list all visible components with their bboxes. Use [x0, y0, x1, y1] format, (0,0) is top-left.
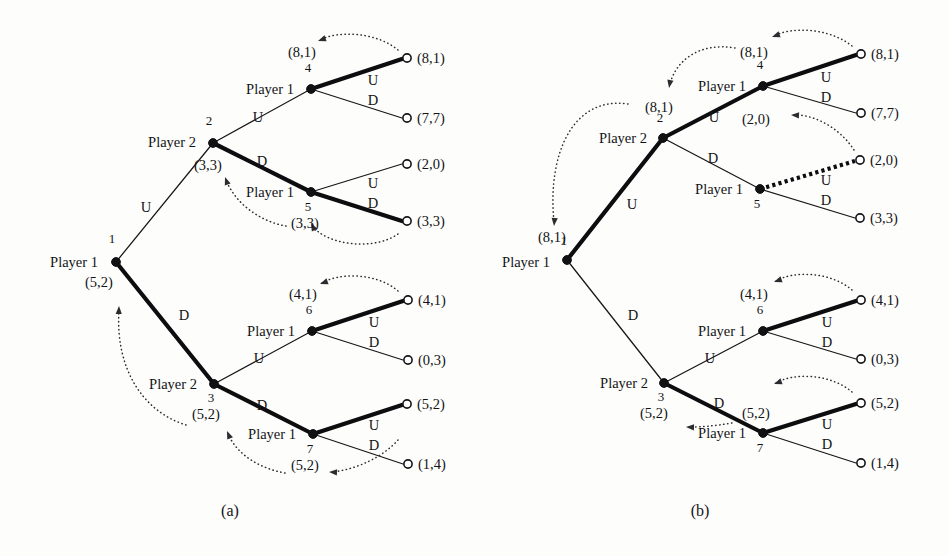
terminal-node-b-t4[interactable]: [856, 214, 864, 222]
panel-a-action-labels: UDUDUDUDUDUDUD: [141, 72, 380, 453]
arrow-head-a-arr-7: [329, 469, 337, 476]
terminal-node-a-t3[interactable]: [403, 160, 411, 168]
panel-a-terminal-nodes: (8,1)(7,7)(2,0)(3,3)(4,1)(0,3)(5,2)(1,4): [403, 50, 446, 473]
backward-induction-arrow-b-arr-1: [553, 103, 628, 222]
decision-node-a-n6[interactable]: [308, 327, 317, 336]
action-label-a-act-3u: U: [254, 350, 265, 366]
backward-induction-arrow-b-arr-5: [794, 115, 854, 150]
tree-edge-a-e-4-t2: [311, 89, 402, 118]
terminal-node-a-t1[interactable]: [403, 54, 411, 62]
player-label-a-n5: Player 1: [246, 184, 294, 200]
player-label-b-n5: Player 1: [695, 181, 743, 197]
terminal-node-b-t1[interactable]: [857, 50, 865, 58]
decision-node-b-n1[interactable]: [563, 256, 572, 265]
backward-induction-arrow-b-arr-6: [776, 274, 852, 290]
value-label-b-val-2: (8,1): [645, 99, 673, 116]
terminal-payoff-a-t8: (1,4): [418, 456, 446, 473]
node-number-b-n6: 6: [757, 302, 764, 317]
panel-b: (8,1)(7,7)(2,0)(3,3)(4,1)(0,3)(5,2)(1,4)…: [502, 30, 899, 472]
terminal-node-b-t5[interactable]: [857, 296, 865, 304]
action-label-b-act-7d: D: [822, 436, 832, 452]
action-label-a-act-1u: U: [141, 199, 152, 215]
action-label-b-act-5d: D: [821, 192, 831, 208]
arrow-head-a-arr-3: [224, 430, 233, 440]
terminal-node-b-t6[interactable]: [857, 355, 865, 363]
terminal-payoff-b-t7: (5,2): [871, 395, 899, 412]
decision-node-b-n3[interactable]: [660, 379, 669, 388]
panel-a-value-labels: (5,2)(3,3)(5,2)(8,1)(3,3)(4,1)(5,2): [85, 44, 319, 474]
value-label-a-val-7: (5,2): [291, 457, 319, 474]
node-number-b-n5: 5: [754, 196, 761, 211]
action-label-a-act-4u: U: [368, 72, 379, 88]
terminal-node-a-t8[interactable]: [404, 460, 412, 468]
terminal-node-a-t4[interactable]: [403, 217, 411, 225]
decision-node-a-n3[interactable]: [210, 380, 219, 389]
action-label-b-act-1d: D: [628, 307, 638, 323]
decision-node-a-n2[interactable]: [209, 139, 218, 148]
terminal-payoff-a-t3: (2,0): [417, 156, 445, 173]
action-label-a-act-2u: U: [253, 109, 264, 125]
tree-edge-a-e-6-t6: [312, 331, 403, 360]
terminal-payoff-b-t5: (4,1): [871, 292, 899, 309]
action-label-a-act-6d: D: [369, 334, 379, 350]
player-label-a-n2: Player 2: [148, 134, 196, 150]
caption-a: (a): [221, 502, 239, 520]
tree-edge-b-e-6-t5: [763, 301, 856, 331]
action-label-a-act-7d: D: [369, 437, 379, 453]
panel-a-decision-nodes: Player 11Player 22Player 23Player 14Play…: [50, 60, 317, 456]
action-label-a-act-7u: U: [369, 417, 380, 433]
decision-node-b-n4[interactable]: [759, 82, 768, 91]
player-label-b-n2: Player 2: [599, 130, 647, 146]
terminal-node-b-t8[interactable]: [857, 459, 865, 467]
terminal-payoff-a-t6: (0,3): [418, 352, 446, 369]
panel-a: (8,1)(7,7)(2,0)(3,3)(4,1)(0,3)(5,2)(1,4)…: [50, 34, 446, 475]
tree-edge-b-e-1-3: [567, 260, 664, 383]
backward-induction-arrow-a-arr-6: [322, 276, 398, 291]
decision-node-b-n6[interactable]: [759, 327, 768, 336]
decision-node-a-n4[interactable]: [307, 85, 316, 94]
decision-node-a-n5[interactable]: [307, 188, 316, 197]
node-number-a-n3: 3: [208, 390, 215, 405]
action-label-a-act-5u: U: [368, 175, 379, 191]
action-label-a-act-6u: U: [369, 314, 380, 330]
arrow-head-b-arr-4: [771, 31, 781, 40]
terminal-node-a-t7[interactable]: [403, 400, 411, 408]
action-label-b-act-2d: D: [708, 150, 718, 166]
terminal-node-b-t2[interactable]: [857, 109, 865, 117]
terminal-node-a-t2[interactable]: [403, 114, 411, 122]
terminal-node-b-t3[interactable]: [856, 156, 864, 164]
value-label-b-val-4: (8,1): [740, 44, 768, 61]
action-label-a-act-5d: D: [368, 195, 378, 211]
player-label-b-n4: Player 1: [698, 78, 746, 94]
action-label-b-act-1u: U: [627, 196, 638, 212]
node-number-a-n2: 2: [206, 113, 213, 128]
action-label-b-act-4d: D: [821, 89, 831, 105]
arrow-head-b-arr-1: [551, 218, 558, 227]
terminal-node-b-t7[interactable]: [857, 399, 865, 407]
value-label-a-val-1: (5,2): [85, 274, 113, 291]
tree-edge-a-e-5-t3: [311, 164, 402, 192]
action-label-a-act-3d: D: [257, 397, 267, 413]
terminal-payoff-b-t6: (0,3): [871, 351, 899, 368]
backward-induction-arrow-a-arr-1: [119, 310, 186, 425]
player-label-a-n1: Player 1: [50, 254, 98, 270]
decision-node-b-n7[interactable]: [759, 429, 768, 438]
player-label-a-n6: Player 1: [247, 323, 295, 339]
decision-node-b-n2[interactable]: [659, 134, 668, 143]
action-label-b-act-4u: U: [821, 69, 832, 85]
player-label-b-n6: Player 1: [698, 323, 746, 339]
value-label-b-val-1: (8,1): [538, 229, 566, 246]
caption-b: (b): [691, 502, 710, 520]
decision-node-a-n1[interactable]: [112, 258, 121, 267]
tree-edge-b-e-7-t8: [763, 433, 856, 463]
terminal-node-a-t6[interactable]: [404, 356, 412, 364]
value-label-a-val-3: (5,2): [192, 406, 220, 423]
action-label-a-act-4d: D: [368, 92, 378, 108]
decision-node-b-n5[interactable]: [756, 185, 765, 194]
action-label-b-act-6d: D: [822, 334, 832, 350]
player-label-a-n3: Player 2: [149, 376, 197, 392]
terminal-payoff-a-t7: (5,2): [417, 396, 445, 413]
tree-edge-a-e-4-t1: [311, 59, 402, 89]
terminal-node-a-t5[interactable]: [404, 296, 412, 304]
decision-node-a-n7[interactable]: [309, 430, 318, 439]
